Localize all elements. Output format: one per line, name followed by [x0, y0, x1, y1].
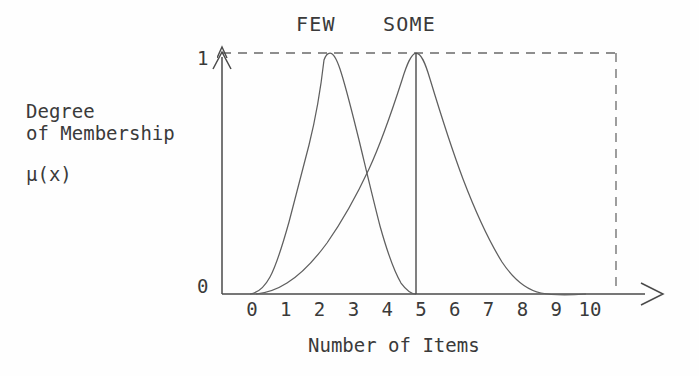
y-tick-label-0: 0 [197, 275, 208, 297]
x-tick-label-8: 8 [517, 298, 528, 320]
x-tick-label-10: 10 [579, 298, 602, 320]
y-axis-symbol: μ(x) [26, 163, 72, 185]
x-tick-label-3: 3 [348, 298, 359, 320]
x-tick-label-6: 6 [449, 298, 460, 320]
x-tick-label-5: 5 [415, 298, 426, 320]
y-axis-title-line1: Degree [26, 100, 95, 122]
fuzzy-membership-figure: FEW SOME Degreeof Membership μ(x) 1 0 01… [0, 0, 699, 376]
x-tick-label-9: 9 [550, 298, 561, 320]
x-tick-label-7: 7 [483, 298, 494, 320]
curve-some [256, 53, 586, 295]
x-tick-label-1: 1 [280, 298, 291, 320]
y-axis-title-line2: of Membership [26, 122, 175, 144]
curve-few [250, 53, 416, 294]
few-curve-label: FEW [296, 13, 336, 37]
x-tick-label-2: 2 [314, 298, 325, 320]
y-tick-label-1: 1 [197, 47, 208, 69]
y-axis-title: Degreeof Membership [26, 100, 175, 145]
x-axis-title: Number of Items [308, 334, 480, 356]
x-tick-label-4: 4 [381, 298, 392, 320]
some-curve-label: SOME [383, 13, 436, 37]
x-tick-label-0: 0 [246, 298, 257, 320]
